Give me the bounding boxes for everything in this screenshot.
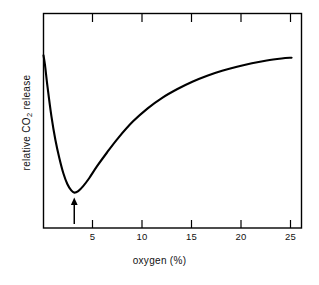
- x-tick-label-15: 15: [177, 231, 207, 242]
- y-axis-title-prefix: relative CO: [21, 117, 32, 170]
- y-axis-title: relative CO2 release: [21, 53, 32, 193]
- plot-frame-box: [44, 14, 302, 229]
- y-axis-title-subscript: 2: [25, 113, 34, 117]
- y-axis-title-suffix: release: [21, 75, 32, 113]
- chart-canvas: [0, 0, 319, 285]
- minimum-marker-arrow: [71, 198, 78, 225]
- x-tick-label-5: 5: [78, 231, 108, 242]
- x-axis-title: oxygen (%): [0, 255, 319, 266]
- x-tick-label-10: 10: [127, 231, 157, 242]
- x-tick-label-20: 20: [226, 231, 256, 242]
- x-tick-label-25: 25: [276, 231, 306, 242]
- data-series-curve: [44, 55, 292, 192]
- figure-container: 5 10 15 20 25 oxygen (%) relative CO2 re…: [0, 0, 319, 285]
- x-axis-ticks-top: [93, 14, 291, 22]
- x-axis-ticks-bottom: [93, 220, 291, 228]
